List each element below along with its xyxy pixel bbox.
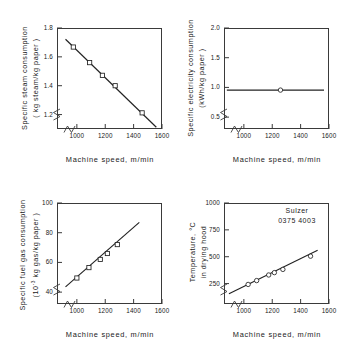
steam-x-tick-label: 1000 [63, 132, 91, 139]
fuelgas-x-tick-label: 1600 [148, 307, 176, 314]
steam-y-tick-label: 1.6 [23, 53, 53, 60]
electricity-x-tick-label: 1400 [287, 132, 315, 139]
fuelgas-y-tick-label: 100 [23, 199, 53, 206]
steam-data-point [88, 61, 92, 65]
temperature-data-point [308, 254, 312, 258]
panel-fuelgas-x-axis-title: Machine speed, m/min [40, 330, 180, 339]
steam-data-point [71, 45, 75, 49]
panel-fuel-gas-consumption: Specific fuel gas consumption (10-3 kg g… [0, 175, 178, 350]
fuelgas-y-tick-label: 60 [23, 258, 53, 265]
steam-y-tick-label: 1.8 [23, 24, 53, 31]
temperature-x-tick-label: 1600 [315, 307, 343, 314]
fuelgas-data-point [87, 266, 91, 270]
electricity-y-tick-label: 0.5 [190, 113, 220, 120]
fuelgas-data-point [105, 251, 109, 255]
machine-annotation-model: 0375 4003 [266, 216, 328, 226]
electricity-data-point [278, 88, 282, 92]
panel-drying-hood-temperature: Temperature, °C in drying hood Sulzer 03… [178, 175, 357, 350]
electricity-x-tick-label: 1600 [315, 132, 343, 139]
temperature-x-tick-label: 1400 [287, 307, 315, 314]
steam-data-point [100, 73, 104, 77]
electricity-y-tick-label: 1.5 [190, 54, 220, 61]
steam-x-tick-label: 1200 [91, 132, 119, 139]
temperature-data-point [266, 273, 270, 277]
electricity-y-tick-label: 1.0 [190, 83, 220, 90]
fuelgas-data-point [75, 276, 79, 280]
fuelgas-x-tick-label: 1000 [63, 307, 91, 314]
electricity-x-tick-label: 1200 [258, 132, 286, 139]
steam-x-tick-label: 1600 [148, 132, 176, 139]
electricity-y-tick-label: 2.0 [190, 24, 220, 31]
fuelgas-data-point [98, 257, 102, 261]
steam-x-tick-label: 1400 [120, 132, 148, 139]
temperature-y-tick-label: 250 [190, 280, 220, 287]
temperature-x-tick-label: 1000 [230, 307, 258, 314]
panel-steam-x-axis-title: Machine speed, m/min [40, 155, 180, 164]
temperature-data-point [246, 282, 250, 286]
temperature-data-point [281, 267, 285, 271]
steam-data-point [113, 84, 117, 88]
temperature-y-tick-label: 750 [190, 226, 220, 233]
fuelgas-x-tick-label: 1400 [120, 307, 148, 314]
panel-electricity-consumption: Specific electricity consumption (kWh/kg… [178, 0, 357, 175]
machine-annotation: Sulzer 0375 4003 [266, 206, 328, 225]
panel-steam-consumption: Specific steam consumption ( kg steam/kg… [0, 0, 178, 175]
temperature-y-tick-label: 500 [190, 253, 220, 260]
fuelgas-y-tick-label: 40 [23, 288, 53, 295]
temperature-data-point [254, 278, 258, 282]
temperature-data-point [272, 270, 276, 274]
temperature-x-tick-label: 1200 [258, 307, 286, 314]
fuelgas-data-point [115, 242, 119, 246]
machine-annotation-brand: Sulzer [286, 207, 309, 214]
temperature-y-tick-label: 1000 [190, 199, 220, 206]
panel-electricity-x-axis-title: Machine speed, m/min [207, 155, 347, 164]
fuelgas-x-tick-label: 1200 [91, 307, 119, 314]
steam-y-tick-label: 1.2 [23, 111, 53, 118]
steam-data-point [140, 111, 144, 115]
panel-temperature-x-axis-title: Machine speed, m/min [207, 330, 347, 339]
fuelgas-y-tick-label: 80 [23, 229, 53, 236]
electricity-x-tick-label: 1000 [230, 132, 258, 139]
steam-y-tick-label: 1.4 [23, 82, 53, 89]
figure-canvas: Specific steam consumption ( kg steam/kg… [0, 0, 357, 350]
